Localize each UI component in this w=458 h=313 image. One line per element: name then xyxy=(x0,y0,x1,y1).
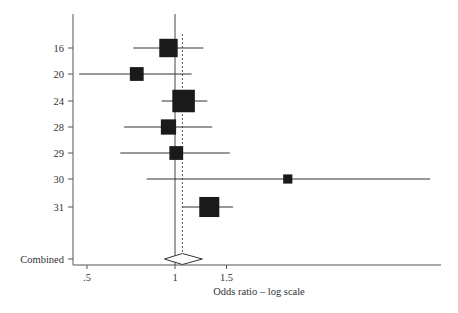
study-row xyxy=(182,197,233,217)
study-label: 16 xyxy=(54,43,65,54)
point-estimate-box xyxy=(159,39,177,57)
axes xyxy=(73,14,441,265)
study-row xyxy=(147,174,430,183)
combined-estimate xyxy=(164,254,202,265)
point-estimate-box xyxy=(169,146,183,160)
study-label: 31 xyxy=(54,202,65,213)
study-row xyxy=(162,90,208,113)
x-tick-label: 1.5 xyxy=(220,272,233,283)
point-estimate-box xyxy=(199,197,219,217)
study-estimates xyxy=(79,39,430,217)
study-row xyxy=(124,119,212,134)
study-row xyxy=(120,146,230,160)
study-label: 28 xyxy=(54,122,65,133)
point-estimate-box xyxy=(130,67,144,81)
point-estimate-box xyxy=(283,174,292,183)
combined-diamond xyxy=(164,254,202,265)
study-label: 30 xyxy=(54,174,65,185)
study-row xyxy=(133,39,203,57)
study-label: Combined xyxy=(20,254,64,265)
study-label: 24 xyxy=(54,96,65,107)
x-tick-label: 1 xyxy=(172,272,177,283)
x-ticks: .511.5 xyxy=(83,265,233,283)
y-ticks: 16202428293031Combined xyxy=(20,43,73,265)
x-tick-label: .5 xyxy=(83,272,91,283)
point-estimate-box xyxy=(172,90,195,113)
point-estimate-box xyxy=(161,119,176,134)
study-label: 29 xyxy=(54,148,65,159)
x-axis-title: Odds ratio – log scale xyxy=(213,286,305,297)
study-label: 20 xyxy=(54,69,65,80)
forest-plot: 16202428293031Combined .511.5 Odds ratio… xyxy=(0,0,458,313)
